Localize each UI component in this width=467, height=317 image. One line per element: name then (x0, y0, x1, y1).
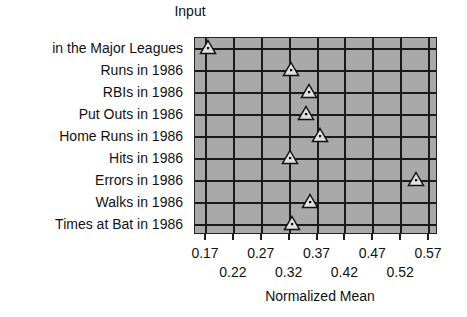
x-axis-tick (288, 234, 290, 240)
plot-area (194, 37, 437, 234)
y-axis-category-label: Walks in 1986 (96, 194, 183, 210)
x-axis-tick (343, 234, 345, 240)
x-axis-tick (316, 234, 318, 240)
horizontal-gridline (195, 114, 436, 116)
triangle-marker-icon (300, 83, 318, 99)
x-axis-tick-label: 0.47 (347, 245, 397, 261)
x-axis-tick (232, 234, 234, 240)
y-axis-category-label: Times at Bat in 1986 (55, 216, 183, 232)
triangle-marker-icon (311, 127, 329, 143)
triangle-marker-icon (407, 171, 425, 187)
x-axis-tick (399, 234, 401, 240)
x-axis-tick-label: 0.27 (236, 245, 286, 261)
horizontal-gridline (195, 48, 436, 50)
x-axis-tick (371, 234, 373, 240)
x-axis-tick-label: 0.57 (403, 245, 453, 261)
x-axis-label: Normalized Mean (230, 288, 410, 304)
chart-title: Input (150, 3, 230, 19)
x-axis-tick (427, 234, 429, 240)
horizontal-gridline (195, 158, 436, 160)
x-axis-tick-label: 0.52 (375, 264, 425, 280)
x-axis-tick-label: 0.42 (319, 264, 369, 280)
triangle-marker-icon (297, 105, 315, 121)
x-axis-tick-label: 0.22 (208, 264, 258, 280)
horizontal-gridline (195, 180, 436, 182)
y-axis-category-label: Errors in 1986 (95, 172, 183, 188)
y-axis-category-label: Runs in 1986 (100, 62, 183, 78)
y-axis-category-label: Home Runs in 1986 (59, 128, 183, 144)
horizontal-gridline (195, 70, 436, 72)
x-axis-tick (204, 234, 206, 240)
triangle-marker-icon (281, 149, 299, 165)
horizontal-gridline (195, 224, 436, 226)
x-axis-tick-label: 0.32 (264, 264, 314, 280)
triangle-marker-icon (199, 39, 217, 55)
triangle-marker-icon (282, 61, 300, 77)
y-axis-category-label: in the Major Leagues (52, 40, 183, 56)
x-axis-tick-label: 0.17 (180, 245, 230, 261)
triangle-marker-icon (283, 215, 301, 231)
y-axis-category-label: Put Outs in 1986 (79, 106, 183, 122)
y-axis-category-label: Hits in 1986 (109, 150, 183, 166)
y-axis-category-label: RBIs in 1986 (103, 84, 183, 100)
triangle-marker-icon (301, 193, 319, 209)
x-axis-tick (260, 234, 262, 240)
x-axis-tick-label: 0.37 (292, 245, 342, 261)
